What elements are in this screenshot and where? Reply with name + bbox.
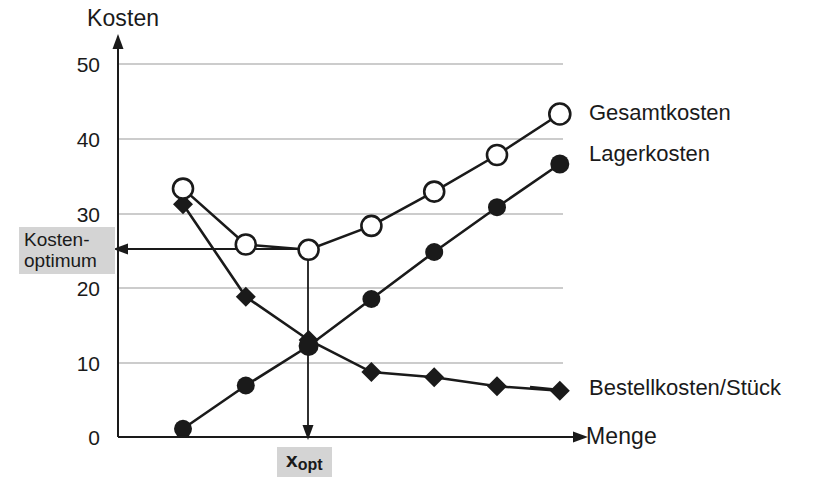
data-point-marker (173, 179, 193, 199)
xopt-subscript: opt (298, 456, 323, 473)
data-point-marker (361, 216, 381, 236)
kostenoptimum-annotation: Kosten- optimum (19, 227, 115, 274)
series-label-lagerkosten: Lagerkosten (589, 141, 710, 167)
y-axis-arrowhead (113, 34, 124, 49)
data-point-marker (487, 376, 507, 396)
chart-container: Kosten Menge 50 40 30 20 10 0 Kosten- op… (0, 0, 813, 489)
data-point-marker (174, 420, 192, 438)
y-tick-label-10: 10 (56, 352, 100, 376)
chart-plot-area (0, 0, 813, 489)
data-point-marker (236, 287, 256, 307)
y-tick-label-30: 30 (56, 203, 100, 227)
data-point-marker (424, 182, 444, 202)
xopt-base: x (286, 448, 298, 471)
data-point-marker (236, 235, 256, 255)
y-tick-label-20: 20 (56, 277, 100, 301)
kostenoptimum-line-1: Kosten- (24, 229, 112, 250)
y-tick-label-40: 40 (56, 128, 100, 152)
data-point-marker (488, 198, 506, 216)
data-point-marker (299, 336, 319, 356)
x-axis-title: Menge (586, 423, 657, 450)
data-point-marker (424, 367, 444, 387)
axes-lines (118, 44, 578, 437)
series-label-gesamtkosten: Gesamtkosten (589, 100, 731, 126)
series-lagerkosten (174, 155, 569, 438)
y-tick-label-50: 50 (56, 53, 100, 77)
y-axis-title: Kosten (87, 5, 159, 32)
xopt-annotation: xopt (277, 447, 332, 477)
data-point-marker (487, 145, 507, 165)
data-point-marker (299, 240, 319, 260)
data-point-marker (549, 104, 570, 125)
series-label-bestellkosten: Bestellkosten/Stück (589, 375, 781, 401)
data-point-marker (425, 243, 443, 261)
y-tick-label-0: 0 (56, 426, 100, 450)
kostenoptimum-line-2: optimum (24, 250, 112, 271)
series-gesamtkosten-markers (173, 104, 570, 260)
data-point-marker (362, 290, 380, 308)
data-point-marker (237, 377, 255, 395)
data-point-marker (550, 155, 569, 174)
series-gesamtkosten (173, 104, 570, 260)
data-point-marker (361, 362, 381, 382)
